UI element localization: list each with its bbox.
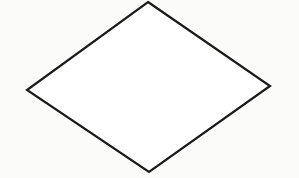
figure-canvas xyxy=(0,0,299,178)
diagram-svg xyxy=(0,0,299,178)
rhombus-shape xyxy=(27,2,270,172)
